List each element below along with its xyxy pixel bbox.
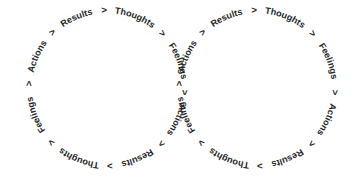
cycle-separator-right-loop-1: > (195, 137, 207, 149)
cycle-separator-left-loop-3: > (179, 89, 190, 96)
cycle-step-thoughts-left-loop-0: Thoughts (114, 6, 157, 31)
cycle-separator-right-loop-3: > (173, 80, 184, 87)
cycle-separator-left-loop-13: > (46, 26, 58, 38)
cycle-step-results-right-loop-14: Results (271, 147, 306, 169)
cycle-separator-right-loop-13: > (306, 138, 318, 150)
cycle-separator-left-loop-15: > (101, 4, 107, 15)
cycle-step-thoughts-left-loop-8: Thoughts (57, 146, 100, 171)
cycle-separator-right-loop-15: > (257, 161, 263, 172)
cycle-separator-right-loop-9: > (307, 27, 319, 39)
left-cycle-loop: Thoughts>Feelings>Actions>Results>Though… (23, 4, 191, 172)
cycle-diagram: Thoughts>Feelings>Actions>Results>Though… (0, 0, 364, 181)
cycle-separator-left-loop-11: > (23, 80, 34, 87)
cycle-step-feelings-right-loop-10: Feelings (317, 41, 339, 80)
figure-eight-loop-svg: Thoughts>Feelings>Actions>Results>Though… (0, 0, 364, 181)
cycle-step-results-right-loop-6: Results (209, 7, 244, 29)
cycle-step-feelings-left-loop-10: Feelings (25, 96, 47, 135)
right-cycle-loop: Thoughts>Feelings>Actions>Results>Though… (173, 4, 341, 172)
cycle-separator-right-loop-5: > (196, 26, 208, 38)
cycle-separator-left-loop-1: > (157, 27, 169, 39)
cycle-step-actions-left-loop-12: Actions (26, 38, 49, 73)
cycle-step-results-left-loop-6: Results (120, 147, 155, 169)
cycle-separator-left-loop-5: > (156, 138, 168, 150)
cycle-step-actions-right-loop-12: Actions (315, 103, 338, 138)
cycle-separator-right-loop-11: > (330, 89, 341, 96)
cycle-separator-left-loop-9: > (45, 137, 57, 149)
cycle-separator-right-loop-7: > (251, 4, 257, 15)
cycle-step-results-left-loop-14: Results (59, 7, 94, 29)
cycle-separator-left-loop-7: > (106, 161, 112, 172)
cycle-step-thoughts-right-loop-8: Thoughts (264, 6, 307, 31)
cycle-step-thoughts-right-loop-0: Thoughts (207, 146, 250, 171)
